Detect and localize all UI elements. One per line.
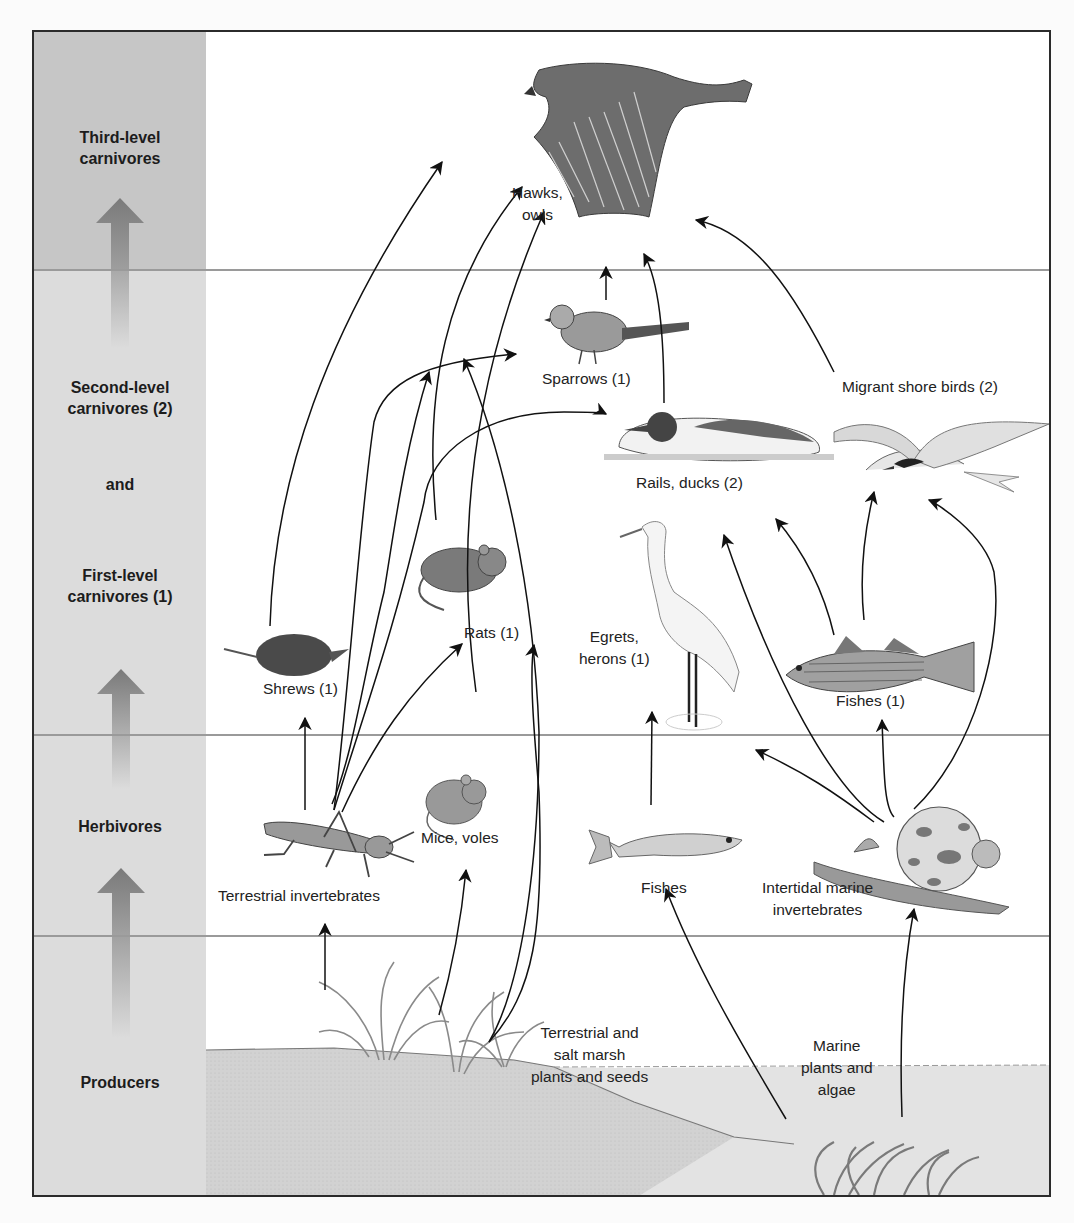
sparrow-illustration	[544, 305, 689, 364]
node-fishes-label: Fishes	[641, 877, 687, 899]
marine-plants-line2: plants and	[801, 1057, 873, 1079]
marine-plants-line1: Marine	[801, 1035, 873, 1057]
node-egrets-herons-label: Egrets, herons (1)	[579, 626, 650, 670]
node-marine-plants-label: Marine plants and algae	[801, 1035, 873, 1101]
arrow-plants-to-sparrows	[464, 359, 539, 1042]
arrow-fishes-to-egrets	[651, 712, 652, 805]
hawks-line1: Hawks,	[512, 182, 563, 204]
arrow-fishes1-to-rails	[776, 519, 834, 635]
node-mice-voles-label: Mice, voles	[421, 827, 499, 849]
intertidal-line2: invertebrates	[762, 899, 873, 921]
shrew-illustration	[224, 634, 349, 676]
node-rats-label: Rats (1)	[464, 622, 519, 644]
egrets-line1: Egrets,	[579, 626, 650, 648]
node-terrestrial-invertebrates-label: Terrestrial invertebrates	[218, 885, 380, 907]
terrestrial-plants-line2: salt marsh	[531, 1044, 648, 1066]
node-migrant-shore-birds-label: Migrant shore birds (2)	[842, 376, 998, 398]
arrow-fishes1-to-shorebirds	[862, 492, 874, 620]
egrets-line2: herons (1)	[579, 648, 650, 670]
rat-illustration	[419, 545, 506, 610]
hawks-line2: owls	[512, 204, 563, 226]
grasshopper-illustration	[264, 812, 414, 877]
terrestrial-plants-line1: Terrestrial and	[531, 1022, 648, 1044]
node-hawks-owls-label: Hawks, owls	[512, 182, 563, 226]
arrow-intertidal-to-egrets	[756, 750, 874, 822]
arrow-rats-to-hawks	[433, 187, 522, 520]
food-web-diagram: Third-level carnivores Second-level carn…	[32, 30, 1051, 1197]
marine-plants-line3: algae	[801, 1079, 873, 1101]
intertidal-line1: Intertidal marine	[762, 877, 873, 899]
bass-illustration	[786, 636, 974, 692]
duck-illustration	[604, 412, 834, 461]
small-fish-illustration	[589, 830, 742, 864]
node-sparrows-label: Sparrows (1)	[542, 368, 631, 390]
node-rails-ducks-label: Rails, ducks (2)	[636, 472, 743, 494]
tern-illustration	[834, 422, 1049, 492]
node-shrews-label: Shrews (1)	[263, 678, 338, 700]
terrestrial-plants-line3: plants and seeds	[531, 1066, 648, 1088]
node-fishes1-label: Fishes (1)	[836, 690, 905, 712]
node-intertidal-marine-invertebrates-label: Intertidal marine invertebrates	[762, 877, 873, 921]
arrow-shorebirds-to-hawks	[696, 220, 834, 372]
arrow-shrews-to-hawks	[270, 162, 442, 626]
arrow-plants-to-mice	[439, 870, 466, 1015]
arrow-mice-to-hawks	[467, 212, 544, 692]
arrow-intertidal-to-fishes1	[882, 720, 894, 817]
node-terrestrial-plants-label: Terrestrial and salt marsh plants and se…	[531, 1022, 648, 1088]
